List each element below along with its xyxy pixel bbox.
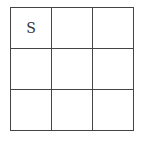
cell-r0-c0: S bbox=[11, 8, 52, 49]
grid-3x3: S bbox=[10, 7, 134, 131]
cell-r2-c0 bbox=[11, 90, 52, 131]
cell-r0-c1 bbox=[52, 8, 93, 49]
cell-r2-c2 bbox=[93, 90, 134, 131]
cell-r1-c1 bbox=[52, 49, 93, 90]
cell-r1-c0 bbox=[11, 49, 52, 90]
cell-r0-c2 bbox=[93, 8, 134, 49]
cell-r2-c1 bbox=[52, 90, 93, 131]
cell-r1-c2 bbox=[93, 49, 134, 90]
